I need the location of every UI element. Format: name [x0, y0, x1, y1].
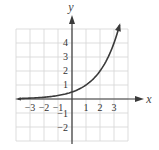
x-tick-label: −2: [39, 102, 50, 113]
y-tick-label: 4: [63, 37, 68, 48]
x-axis-arrow-icon: [135, 96, 144, 102]
x-tick-label: −3: [25, 102, 36, 113]
y-tick-label: 3: [63, 51, 68, 62]
y-tick-label: −1: [57, 108, 68, 119]
x-axis-label: x: [145, 92, 152, 106]
x-tick-label: 3: [112, 102, 117, 113]
y-tick-label: −2: [57, 122, 68, 133]
x-tick-label: 2: [98, 102, 103, 113]
axes: x y: [15, 0, 152, 144]
y-axis-label: y: [67, 0, 74, 14]
y-tick-label: 1: [63, 79, 68, 90]
x-tick-label: 1: [84, 102, 89, 113]
exponential-graph: x y −3 −2 −1 1 2 3 4 3 2 1 −1 −2: [0, 0, 159, 150]
y-tick-label: 2: [63, 65, 68, 76]
y-axis-arrow-icon: [69, 15, 75, 24]
curve-arrow-icon: [115, 23, 121, 32]
exponential-curve: [19, 25, 120, 98]
